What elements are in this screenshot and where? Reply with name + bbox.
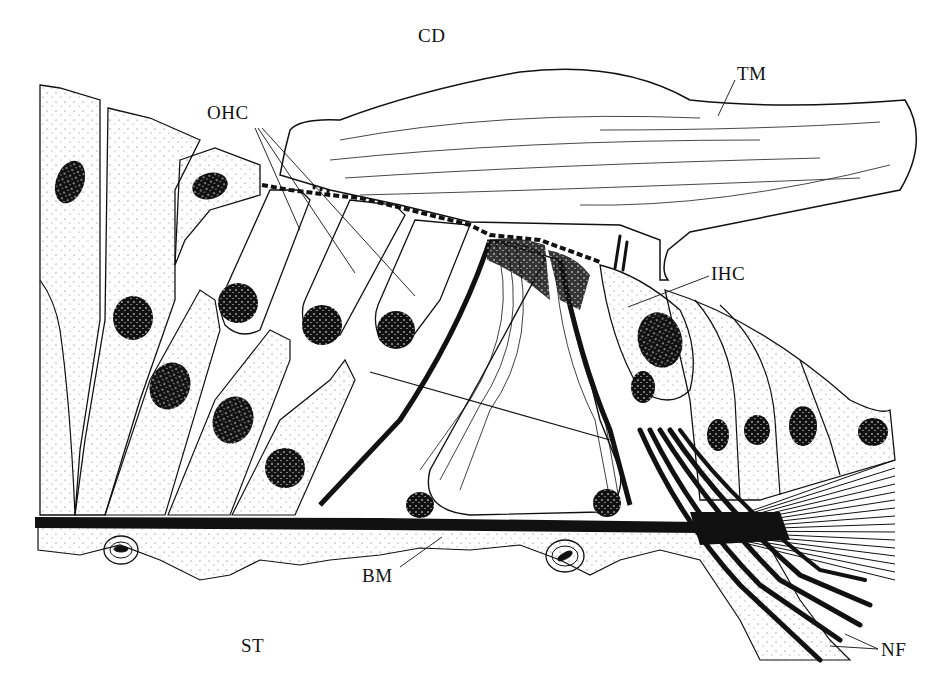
nucleus [789,406,817,446]
nucleus [631,371,655,403]
nucleus [593,489,621,517]
label-nerve-fibers: NF [881,640,906,659]
organ-of-corti-diagram: CD TM OHC IHC BM ST NF [0,0,947,689]
ohc-nucleus [218,283,258,323]
nucleus [744,415,770,445]
ohc-nucleus [302,305,342,345]
label-tectorial-membrane: TM [737,64,767,83]
label-outer-hair-cells: OHC [207,103,249,122]
ohc-nucleus [377,311,415,349]
label-inner-hair-cell: IHC [711,264,745,283]
nucleus [858,418,888,446]
diagram-illustration [0,0,947,689]
tympanic-lip-tissue [38,525,850,660]
pillar-head-dark [487,238,550,300]
label-basilar-membrane: BM [362,566,393,585]
label-cochlear-duct: CD [418,26,445,45]
nucleus [113,296,153,340]
ihc-stereocilia [615,236,627,270]
label-scala-tympani: ST [241,636,264,655]
nucleus [406,492,434,518]
nucleus [707,419,729,451]
